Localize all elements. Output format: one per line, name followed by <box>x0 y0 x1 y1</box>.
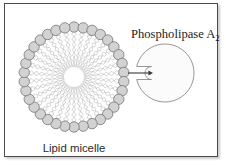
lipid-head-group <box>69 22 79 32</box>
lipid-head-group <box>69 122 79 132</box>
enzyme-label-main: Phospholipase A <box>131 27 215 41</box>
lipid-head-group <box>21 85 31 95</box>
micelle-core <box>65 68 83 86</box>
lipid-head-group <box>119 76 129 86</box>
lipid-head-group <box>119 67 129 77</box>
diagram-canvas: Phospholipase A2 Lipid micelle <box>0 0 226 166</box>
lipid-head-group <box>78 121 88 131</box>
lipid-tail <box>43 41 67 69</box>
lipid-head-group <box>19 67 29 77</box>
lipid-tail <box>83 55 116 72</box>
substrate-entry-arrow <box>128 70 153 75</box>
lipid-tail <box>76 31 84 67</box>
lipid-head-group <box>19 76 29 86</box>
lipid-tail <box>64 87 72 123</box>
figure-root: Phospholipase A2 Lipid micelle <box>0 0 226 166</box>
lipid-head-group <box>60 23 70 33</box>
micelle-caption: Lipid micelle <box>43 142 106 154</box>
lipid-tail <box>43 85 67 113</box>
lipid-head-group <box>117 58 127 68</box>
enzyme-label: Phospholipase A2 <box>131 27 220 43</box>
lipid-tail <box>83 82 116 99</box>
enzyme-label-subscript: 2 <box>215 33 219 43</box>
lipid-tail <box>64 31 72 67</box>
lipid-tail <box>33 82 66 99</box>
lipid-tail <box>81 41 105 69</box>
lipid-tail <box>33 55 66 72</box>
lipid-tail <box>81 85 105 113</box>
lipid-tail <box>76 87 84 123</box>
